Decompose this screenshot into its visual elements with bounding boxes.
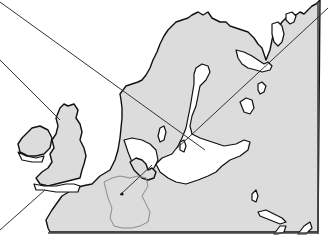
lake-ladoga <box>272 22 284 46</box>
ireland <box>18 126 52 156</box>
northern-europe-map <box>0 0 328 250</box>
british-coastal-band <box>34 184 80 192</box>
lake-onega <box>286 12 296 24</box>
location-marker <box>120 192 123 195</box>
leader-line-3 <box>0 190 45 230</box>
gotland <box>180 140 186 152</box>
leader-line-2 <box>0 60 60 120</box>
